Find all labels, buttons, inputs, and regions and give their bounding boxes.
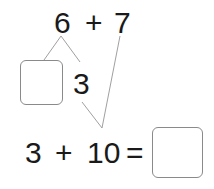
top-plus-sign: + xyxy=(85,8,103,38)
top-left-number: 6 xyxy=(54,8,71,38)
bottom-right-number: 10 xyxy=(87,138,120,168)
final-answer-box[interactable] xyxy=(152,127,203,178)
decomposition-given-number: 3 xyxy=(73,69,90,99)
bottom-left-number: 3 xyxy=(25,138,42,168)
top-right-number: 7 xyxy=(114,8,131,38)
decomposition-answer-box[interactable] xyxy=(20,60,63,105)
equals-sign: = xyxy=(126,138,144,168)
bottom-plus-sign: + xyxy=(55,138,73,168)
